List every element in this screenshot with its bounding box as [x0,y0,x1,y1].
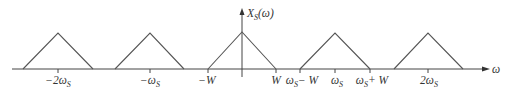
tick-label-ws-minus-w: ωS− W [286,74,320,89]
tick-label-w: W [271,74,282,86]
tick-label-ws-plus-w: ωS+ W [356,74,390,89]
tick-label-neg-2ws: −2ωS [45,74,71,89]
replica-triangle-neg1 [115,33,184,69]
diagram-canvas: ω XS(ω) −2ωS −ωS −W W ωS− W ωS ωS+ W 2ω [0,0,508,91]
replica-triangle-neg2 [23,33,93,69]
omega-axis-label: ω [492,63,500,75]
replica-triangle-pos1 [300,33,370,69]
tick-marks [58,69,428,73]
replica-triangle-pos2 [394,33,463,69]
magnitude-axis-arrow-icon [240,8,245,15]
magnitude-axis-label: XS(ω) [246,7,274,22]
sampled-spectrum-diagram: ω XS(ω) −2ωS −ωS −W W ωS− W ωS ωS+ W 2ω [0,0,508,91]
tick-label-2ws: 2ωS [420,74,438,89]
omega-axis-arrow-icon [482,67,490,72]
tick-label-neg-w: −W [198,74,217,86]
tick-label-neg-ws: −ωS [140,74,160,89]
tick-label-ws: ωS [331,74,343,89]
